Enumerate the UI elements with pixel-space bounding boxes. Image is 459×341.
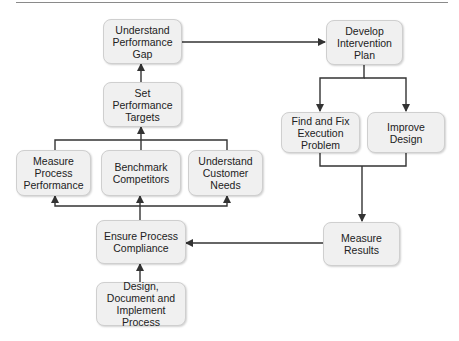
node-benchmark-competitors: Benchmark Competitors: [101, 150, 181, 196]
node-measure-results: Measure Results: [323, 222, 400, 266]
node-design-document-implement: Design, Document and Implement Process: [96, 282, 186, 326]
node-measure-process-performance: Measure Process Performance: [16, 150, 91, 196]
node-label: Develop Intervention Plan: [330, 25, 399, 61]
node-label: Measure Process Performance: [20, 155, 87, 191]
node-label: Benchmark Competitors: [105, 161, 177, 185]
node-label: Design, Document and Implement Process: [100, 280, 182, 328]
node-set-performance-targets: Set Performance Targets: [103, 82, 182, 127]
node-ensure-process-compliance: Ensure Process Compliance: [96, 220, 186, 264]
node-label: Find and Fix Execution Problem: [285, 115, 356, 151]
node-label: Ensure Process Compliance: [100, 230, 182, 254]
node-improve-design: Improve Design: [367, 112, 445, 153]
node-understand-customer-needs: Understand Customer Needs: [188, 150, 263, 196]
node-label: Understand Customer Needs: [192, 155, 259, 191]
node-label: Set Performance Targets: [107, 87, 178, 123]
node-understand-performance-gap: Understand Performance Gap: [103, 19, 182, 64]
node-develop-intervention-plan: Develop Intervention Plan: [326, 20, 403, 65]
node-label: Improve Design: [371, 121, 441, 145]
node-label: Understand Performance Gap: [107, 24, 178, 60]
node-find-fix-execution-problem: Find and Fix Execution Problem: [281, 112, 360, 153]
node-label: Measure Results: [327, 232, 396, 256]
